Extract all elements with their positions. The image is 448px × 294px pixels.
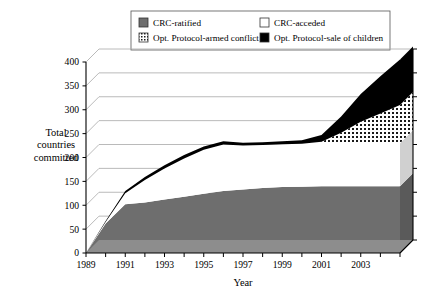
legend-swatch-op_armed_conflict: [139, 33, 148, 42]
y-tick-label-250: 250: [65, 128, 80, 139]
y-tick-label-100: 100: [65, 200, 80, 211]
x-tick-label-1989: 1989: [76, 259, 95, 270]
gridline-350: [86, 73, 413, 86]
chart-legend: CRC-ratifiedCRC-accededOpt. Protocol-arm…: [131, 11, 390, 50]
y-axis-title-line-0: Total: [45, 127, 66, 138]
x-tick-label-1995: 1995: [194, 259, 213, 270]
y-tick-label-300: 300: [65, 104, 80, 115]
y-axis-title-line-1: countries: [37, 139, 75, 150]
legend-box: [131, 11, 390, 50]
gridline-400: [86, 49, 413, 62]
legend-swatch-crc_acceded: [260, 18, 269, 27]
y-tick-label-350: 350: [65, 80, 80, 91]
y-axis-title-line-2: committed: [34, 152, 79, 163]
legend-swatch-crc_ratified: [139, 18, 148, 27]
legend-label-crc_ratified: CRC-ratified: [153, 18, 201, 28]
x-axis-title: Year: [233, 277, 253, 288]
legend-label-op_sale_of_children: Opt. Protocol-sale of children: [274, 33, 384, 43]
x-tick-label-1991: 1991: [116, 259, 135, 270]
y-tick-label-400: 400: [65, 56, 80, 67]
legend-swatch-op_sale_of_children: [260, 33, 269, 42]
x-tick-label-2003: 2003: [351, 259, 370, 270]
floor-slab: [86, 240, 413, 253]
chart-root: CRC-ratifiedCRC-accededOpt. Protocol-arm…: [0, 0, 448, 294]
x-tick-label-2001: 2001: [312, 259, 331, 270]
x-tick-label-1997: 1997: [233, 259, 252, 270]
legend-label-crc_acceded: CRC-acceded: [274, 18, 325, 28]
stacked-area-chart: CRC-ratifiedCRC-accededOpt. Protocol-arm…: [0, 0, 448, 294]
y-tick-label-0: 0: [74, 247, 79, 258]
y-tick-label-50: 50: [69, 224, 79, 235]
x-tick-label-1993: 1993: [155, 259, 174, 270]
plot-areas: [86, 47, 413, 253]
x-tick-label-1999: 1999: [273, 259, 292, 270]
legend-label-op_armed_conflict: Opt. Protocol-armed conflict: [153, 33, 259, 43]
y-tick-label-150: 150: [65, 176, 80, 187]
